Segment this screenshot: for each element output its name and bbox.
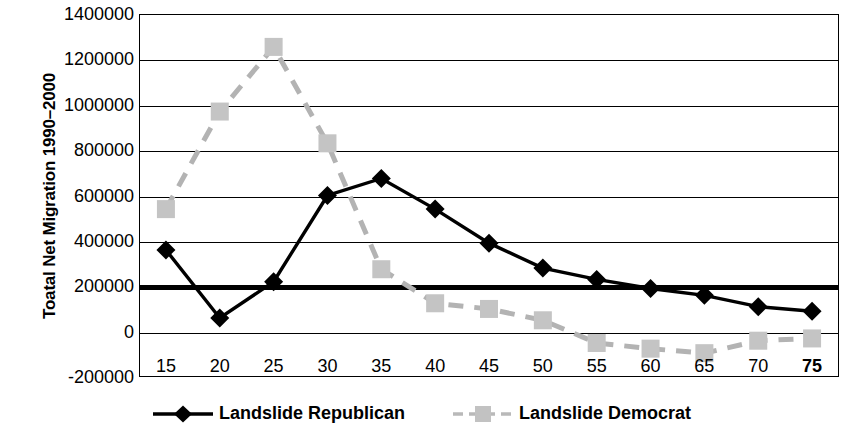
y-axis-tick-label: 400000 — [10, 232, 134, 250]
y-axis-tick-label: 200000 — [10, 277, 134, 295]
y-axis-tick-label: 600000 — [10, 187, 134, 205]
x-axis-tick-label: 45 — [467, 355, 511, 377]
x-axis-tick-label: 15 — [144, 355, 188, 377]
gridline — [140, 197, 838, 198]
y-axis-tick-labels: 1400000120000010000008000006000004000002… — [0, 0, 134, 431]
plot-area — [139, 14, 839, 377]
gridline — [140, 106, 838, 107]
y-axis-tick-label: 1200000 — [10, 50, 134, 68]
legend-item-landslide-republican: Landslide Republican — [151, 403, 405, 425]
x-axis-tick-label: 75 — [790, 355, 834, 377]
x-axis-tick-label: 60 — [629, 355, 673, 377]
gridline-zero — [140, 333, 838, 334]
chart-legend: Landslide Republican Landslide Democrat — [0, 396, 842, 431]
y-axis-tick-label: 1400000 — [10, 5, 134, 23]
x-axis-tick-label: 40 — [413, 355, 457, 377]
x-axis-tick-label: 20 — [198, 355, 242, 377]
y-axis-tick-label: -200000 — [10, 368, 134, 386]
x-axis-tick-label: 70 — [736, 355, 780, 377]
gridline — [140, 60, 838, 61]
x-axis-tick-labels: 15202530354045505560657075 — [139, 353, 839, 379]
legend-label-democrat: Landslide Democrat — [519, 403, 691, 424]
x-axis-tick-label: 55 — [575, 355, 619, 377]
chart-figure: Toatal Net Migration 1990–2000 140000012… — [0, 0, 842, 431]
y-axis-tick-label: 1000000 — [10, 96, 134, 114]
x-axis-tick-label: 25 — [252, 355, 296, 377]
legend-item-landslide-democrat: Landslide Democrat — [451, 403, 691, 425]
x-axis-tick-label: 50 — [521, 355, 565, 377]
gray-square-dashed-line-icon — [451, 403, 515, 425]
x-axis-tick-label: 35 — [359, 355, 403, 377]
gridline — [140, 151, 838, 152]
legend-label-republican: Landslide Republican — [219, 403, 405, 424]
black-diamond-line-icon — [151, 403, 215, 425]
gridline — [140, 242, 838, 243]
y-axis-tick-label: 800000 — [10, 141, 134, 159]
x-axis-tick-label: 65 — [682, 355, 726, 377]
emphasis-gridline — [140, 285, 838, 290]
x-axis-tick-label: 30 — [305, 355, 349, 377]
y-axis-tick-label: 0 — [10, 323, 134, 341]
